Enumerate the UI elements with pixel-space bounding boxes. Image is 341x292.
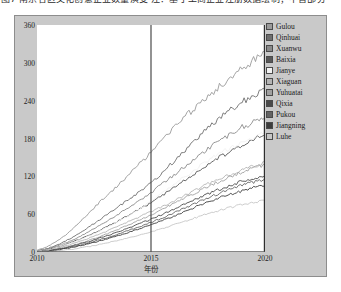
- legend-item-label: Gulou: [276, 22, 295, 31]
- legend-swatch-icon: [266, 56, 273, 63]
- legend-item[interactable]: Baixia: [266, 54, 322, 65]
- x-tick-label: 2020: [258, 254, 273, 263]
- y-tick-label: 360: [13, 21, 35, 30]
- figure-caption-text: 图7 南京各区文化创意企业数量演变 注：基于工商企业注册数据绘制；不含部分: [1, 0, 326, 5]
- legend-item[interactable]: Gulou: [266, 21, 322, 32]
- legend-item-label: Qixia: [276, 99, 293, 108]
- chart-legend: GulouQinhuaiXuanwuBaixiaJianyeXiaguanYuh…: [266, 21, 322, 142]
- legend-swatch-icon: [266, 100, 273, 107]
- legend-item-label: Luhe: [276, 132, 291, 141]
- legend-item[interactable]: Xiaguan: [266, 76, 322, 87]
- legend-item-label: Pukou: [276, 110, 295, 119]
- legend-item-label: Jianye: [276, 66, 295, 75]
- y-tick-label: 300: [13, 58, 35, 67]
- legend-item-label: Qinhuai: [276, 33, 300, 42]
- legend-item[interactable]: Xuanwu: [266, 43, 322, 54]
- legend-swatch-icon: [266, 89, 273, 96]
- legend-item[interactable]: Jiangning: [266, 120, 322, 131]
- y-tick-label: 120: [13, 172, 35, 181]
- legend-item[interactable]: Qixia: [266, 98, 322, 109]
- y-axis-ticks: 060120180240300360: [15, 25, 35, 252]
- legend-swatch-icon: [266, 122, 273, 129]
- line-series-group: [37, 25, 265, 252]
- legend-swatch-icon: [266, 45, 273, 52]
- x-axis-title: 年份: [37, 263, 265, 274]
- legend-swatch-icon: [266, 133, 273, 140]
- x-tick-label: 2015: [144, 254, 159, 263]
- x-tick-label: 2010: [30, 254, 45, 263]
- y-tick-label: 60: [13, 210, 35, 219]
- chart-figure: 文化创意企业数量/家 060120180240300360 2010201520…: [14, 15, 327, 277]
- legend-item-label: Yuhuatai: [276, 88, 303, 97]
- legend-item[interactable]: Luhe: [266, 131, 322, 142]
- legend-item[interactable]: Yuhuatai: [266, 87, 322, 98]
- plot-area: [37, 25, 265, 252]
- legend-item-label: Xiaguan: [276, 77, 301, 86]
- y-tick-label: 180: [13, 134, 35, 143]
- legend-swatch-icon: [266, 111, 273, 118]
- legend-swatch-icon: [266, 78, 273, 85]
- legend-item-label: Baixia: [276, 55, 296, 64]
- figure-caption-strip: 图7 南京各区文化创意企业数量演变 注：基于工商企业注册数据绘制；不含部分: [0, 0, 341, 11]
- legend-item[interactable]: Jianye: [266, 65, 322, 76]
- legend-item[interactable]: Qinhuai: [266, 32, 322, 43]
- legend-swatch-icon: [266, 34, 273, 41]
- legend-item-label: Xuanwu: [276, 44, 301, 53]
- legend-swatch-icon: [266, 23, 273, 30]
- legend-swatch-icon: [266, 67, 273, 74]
- legend-item-label: Jiangning: [276, 121, 305, 130]
- y-tick-label: 240: [13, 96, 35, 105]
- legend-item[interactable]: Pukou: [266, 109, 322, 120]
